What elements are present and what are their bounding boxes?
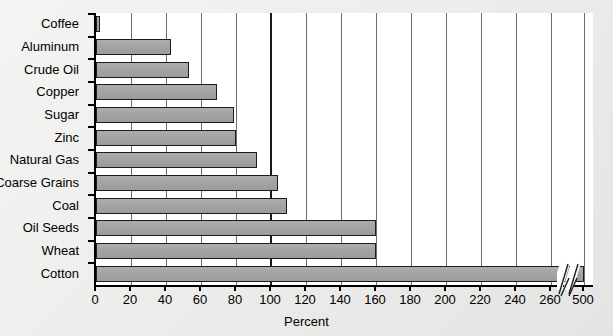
x-tick-20 bbox=[129, 285, 131, 291]
x-tick-260 bbox=[549, 285, 551, 291]
x-tick-0 bbox=[94, 285, 96, 291]
x-tick-140 bbox=[339, 285, 341, 291]
category-label-coal: Coal bbox=[52, 198, 79, 214]
x-tick-label-180: 180 bbox=[399, 292, 421, 307]
bar-row bbox=[96, 198, 593, 214]
bar-row bbox=[96, 39, 593, 55]
x-tick-label-220: 220 bbox=[469, 292, 491, 307]
bar-coal bbox=[96, 198, 287, 214]
bar-row bbox=[96, 62, 593, 78]
category-label-sugar: Sugar bbox=[44, 107, 79, 123]
bar-cotton bbox=[96, 266, 584, 282]
x-tick-label-0: 0 bbox=[91, 292, 98, 307]
x-tick-label-140: 140 bbox=[329, 292, 351, 307]
category-label-copper: Copper bbox=[36, 84, 79, 100]
x-tick-label-100: 100 bbox=[259, 292, 281, 307]
category-label-coarse-grains: Coarse Grains bbox=[0, 175, 79, 191]
category-label-crude-oil: Crude Oil bbox=[24, 62, 79, 78]
x-axis-title: Percent bbox=[0, 314, 613, 329]
category-label-natural-gas: Natural Gas bbox=[10, 152, 79, 168]
value-axis: 020406080100120140160180200220240260500 bbox=[94, 285, 591, 311]
x-tick-label-500: 500 bbox=[572, 292, 594, 307]
bar-row bbox=[96, 16, 593, 32]
bar-row bbox=[96, 84, 593, 100]
x-tick-40 bbox=[164, 285, 166, 291]
x-tick-60 bbox=[199, 285, 201, 291]
x-tick-100 bbox=[269, 285, 271, 291]
x-tick-120 bbox=[304, 285, 306, 291]
x-tick-500 bbox=[582, 285, 584, 291]
x-tick-label-240: 240 bbox=[504, 292, 526, 307]
category-axis: CoffeeAluminumCrude OilCopperSugarZincNa… bbox=[0, 13, 88, 285]
bar-zinc bbox=[96, 130, 236, 146]
bar-row bbox=[96, 175, 593, 191]
bar-sugar bbox=[96, 107, 234, 123]
category-label-zinc: Zinc bbox=[54, 130, 79, 146]
bar-row bbox=[96, 130, 593, 146]
bar-row bbox=[96, 152, 593, 168]
x-tick-80 bbox=[234, 285, 236, 291]
category-label-cotton: Cotton bbox=[41, 266, 79, 282]
x-tick-180 bbox=[409, 285, 411, 291]
x-tick-240 bbox=[514, 285, 516, 291]
bar-row bbox=[96, 266, 593, 282]
bar-aluminum bbox=[96, 39, 171, 55]
category-label-wheat: Wheat bbox=[41, 243, 79, 259]
x-tick-160 bbox=[374, 285, 376, 291]
bar-chart-figure: CoffeeAluminumCrude OilCopperSugarZincNa… bbox=[0, 0, 613, 336]
bar-row bbox=[96, 220, 593, 236]
x-tick-label-120: 120 bbox=[294, 292, 316, 307]
x-tick-200 bbox=[444, 285, 446, 291]
bar-natural-gas bbox=[96, 152, 257, 168]
category-label-coffee: Coffee bbox=[41, 16, 79, 32]
bar-crude-oil bbox=[96, 62, 189, 78]
category-label-aluminum: Aluminum bbox=[21, 39, 79, 55]
x-tick-220 bbox=[479, 285, 481, 291]
bar-coarse-grains bbox=[96, 175, 278, 191]
x-tick-label-40: 40 bbox=[158, 292, 172, 307]
x-tick-label-160: 160 bbox=[364, 292, 386, 307]
plot-area bbox=[94, 13, 593, 287]
category-label-oil-seeds: Oil Seeds bbox=[23, 220, 79, 236]
x-tick-label-20: 20 bbox=[123, 292, 137, 307]
bar-row bbox=[96, 107, 593, 123]
bar-coffee bbox=[96, 16, 100, 32]
x-tick-label-60: 60 bbox=[193, 292, 207, 307]
bar-wheat bbox=[96, 243, 376, 259]
bar-row bbox=[96, 243, 593, 259]
x-tick-label-260: 260 bbox=[539, 292, 561, 307]
bar-copper bbox=[96, 84, 217, 100]
x-tick-label-200: 200 bbox=[434, 292, 456, 307]
x-tick-label-80: 80 bbox=[228, 292, 242, 307]
bar-oil-seeds bbox=[96, 220, 376, 236]
